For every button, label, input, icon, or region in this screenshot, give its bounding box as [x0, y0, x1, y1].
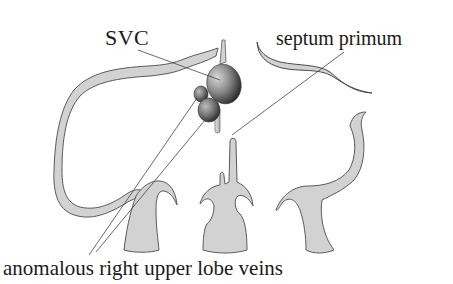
atrial-wall-left-loop	[54, 48, 218, 217]
anomalous-veins-label: anomalous right upper lobe veins	[3, 258, 283, 279]
septum-primum-label: septum primum	[276, 28, 402, 48]
svc-top-spike	[220, 40, 226, 64]
middle-trident	[200, 138, 253, 253]
right-curl	[276, 112, 366, 253]
septum-primum	[257, 42, 372, 93]
anomalous-vein-lower	[198, 98, 220, 122]
svc-label: SVC	[105, 27, 149, 49]
